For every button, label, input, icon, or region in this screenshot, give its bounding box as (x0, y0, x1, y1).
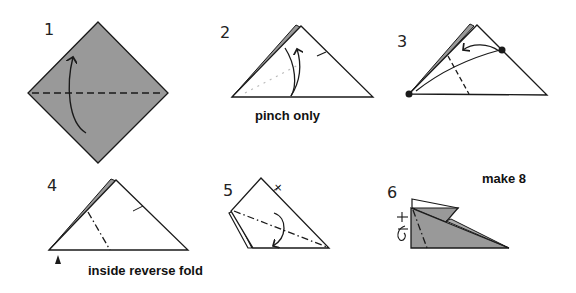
triangle-paper (409, 25, 547, 95)
step-6-instruction: make 8 (482, 171, 526, 186)
reference-point-dot (406, 91, 413, 98)
step-number-3: 3 (397, 32, 407, 51)
step-2: 2 pinch only (220, 23, 373, 123)
step-6: 6 make 8 (387, 171, 526, 248)
step-1: 1 (28, 20, 168, 163)
turn-over-symbol-icon (397, 212, 408, 240)
step-3: 3 (397, 24, 547, 98)
triangle-paper (49, 180, 188, 250)
triangle-paper (232, 26, 373, 97)
origami-diagram: 1 2 pinch only 3 4 inside reverse fold (0, 0, 576, 293)
push-arrow-icon (55, 255, 61, 264)
step-number-4: 4 (47, 176, 57, 195)
step-number-6: 6 (387, 183, 397, 202)
reference-point-dot (499, 47, 506, 54)
step-number-2: 2 (220, 23, 230, 42)
step-5: 5 × (223, 178, 329, 248)
step-number-1: 1 (44, 20, 54, 39)
step-number-5: 5 (223, 181, 233, 200)
step-4: 4 inside reverse fold (47, 176, 203, 278)
step-4-instruction: inside reverse fold (88, 263, 203, 278)
step-2-instruction: pinch only (255, 108, 321, 123)
